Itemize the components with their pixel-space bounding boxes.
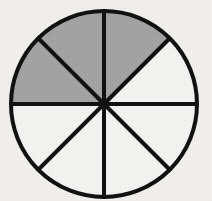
fraction-circle-figure [0, 0, 212, 201]
pie-chart-svg [0, 0, 212, 201]
